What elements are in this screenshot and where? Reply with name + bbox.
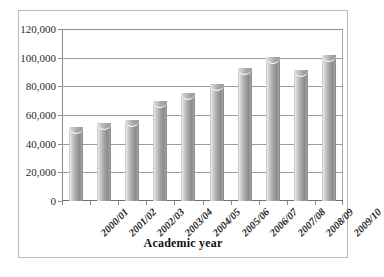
category-label: 2005/06 [240,207,272,239]
bar-top-cap-fill [210,84,224,90]
bar [238,69,252,201]
bar [322,56,336,201]
bar-top-cap [322,55,336,62]
bar-top-cap-fill [181,93,195,99]
y-tick [58,144,62,145]
category-label: 2000/01 [99,207,131,239]
bar-top-cap-fill [125,120,139,126]
bar [294,71,308,201]
y-tick [58,29,62,30]
y-tick [58,172,62,173]
chart-figure: 020,00040,00060,00080,000100,000120,000 … [18,10,348,258]
bar [97,124,111,201]
y-axis-label: 40,000 [26,138,56,149]
category-label: 2007/08 [296,207,328,239]
plot-area: 020,00040,00060,00080,000100,000120,000 [62,29,343,201]
gridline [62,58,343,59]
bar-top-cap-fill [322,55,336,61]
bar [69,128,83,201]
category-label: 2002/03 [155,207,187,239]
bar-top-cap [125,120,139,127]
bar-top-cap [266,57,280,64]
bar [210,85,224,201]
category-label: 2001/02 [127,207,159,239]
bar-top-cap [238,68,252,75]
bar-top-cap [97,123,111,130]
y-tick [58,86,62,87]
y-axis-label: 120,000 [20,24,56,35]
y-axis-label: 100,000 [20,52,56,63]
bar-top-cap [294,70,308,77]
category-label: 2004/05 [212,207,244,239]
bar [181,94,195,202]
x-axis-title: Academic year [19,236,347,251]
y-tick [58,115,62,116]
bar [125,121,139,201]
gridline [62,29,343,30]
y-axis-label: 0 [51,196,57,207]
category-label: 2008/09 [324,207,356,239]
bar-top-cap [69,127,83,134]
bar-top-cap-fill [97,123,111,129]
bar-top-cap [210,84,224,91]
bar-top-cap-fill [69,127,83,133]
bar-top-cap-fill [238,68,252,74]
category-label: 2003/04 [183,207,215,239]
bar-top-cap [181,93,195,100]
category-label: 2009/10 [352,207,384,239]
bar [266,58,280,201]
y-axis-label: 60,000 [26,110,56,121]
bar-top-cap-fill [153,101,167,107]
y-tick [58,58,62,59]
bar-top-cap-fill [266,57,280,63]
bar-top-cap-fill [294,70,308,76]
bar [153,102,167,201]
y-axis-label: 20,000 [26,167,56,178]
bar-top-cap [153,101,167,108]
y-axis-label: 80,000 [26,81,56,92]
category-label: 2006/07 [268,207,300,239]
